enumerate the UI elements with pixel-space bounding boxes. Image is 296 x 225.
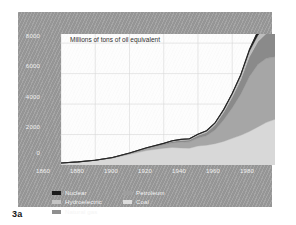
- legend-swatch-coal: [123, 200, 132, 204]
- x-tick-label: 1880: [64, 168, 90, 174]
- y-tick-label: 4000: [16, 94, 40, 100]
- x-tick-label: 1920: [132, 168, 158, 174]
- legend-column-left: Nuclear Hydroelectric Natural gas: [52, 188, 102, 217]
- legend-swatch-natural-gas: [52, 210, 61, 214]
- legend-label: Coal: [136, 199, 149, 205]
- x-tick-label: 1860: [30, 168, 56, 174]
- legend-swatch-nuclear: [52, 191, 61, 195]
- legend-item-petroleum: Petroleum: [123, 188, 165, 198]
- chart-background-panel: 8000 6000 4000 2000 0 1860 1880 1900 192…: [18, 12, 272, 207]
- y-tick-label: 0: [16, 150, 40, 156]
- legend-label: Petroleum: [136, 190, 165, 196]
- legend-swatch-hydroelectric: [52, 200, 61, 204]
- y-tick-label: 6000: [16, 63, 40, 69]
- x-tick-label: 1980: [234, 168, 260, 174]
- legend-item-hydroelectric: Hydroelectric: [52, 198, 102, 208]
- axis-title: Millions of tons of oil equivalent: [70, 36, 166, 45]
- figure-caption: 3a: [12, 209, 22, 219]
- x-tick-label: 1960: [200, 168, 226, 174]
- legend-swatch-petroleum: [123, 191, 132, 195]
- legend-item-nuclear: Nuclear: [52, 188, 102, 198]
- legend-label: Nuclear: [65, 190, 87, 196]
- y-tick-label: 2000: [16, 124, 40, 130]
- y-tick-label: 8000: [16, 33, 40, 39]
- stacked-area-chart: [61, 34, 275, 165]
- legend-label: Hydroelectric: [65, 199, 102, 205]
- legend-column-right: Petroleum Coal: [123, 188, 165, 207]
- legend-item-coal: Coal: [123, 198, 165, 208]
- x-tick-label: 1900: [98, 168, 124, 174]
- legend-item-natural-gas: Natural gas: [52, 207, 102, 217]
- legend-label: Natural gas: [65, 209, 97, 215]
- plot-area: [61, 34, 275, 165]
- x-tick-label: 1940: [166, 168, 192, 174]
- figure-panel: 8000 6000 4000 2000 0 1860 1880 1900 192…: [0, 0, 296, 225]
